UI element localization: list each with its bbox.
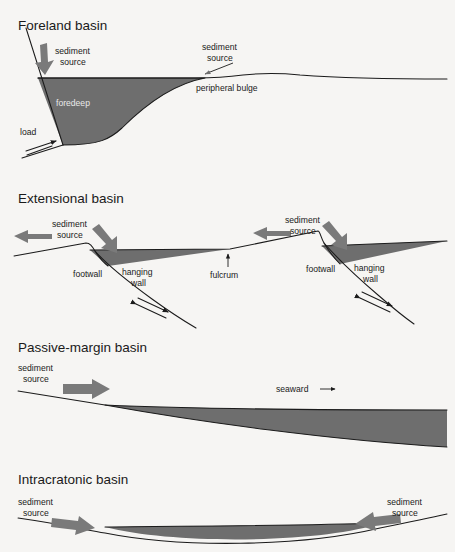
hanging-wall-label-left-line1: hanging	[122, 267, 153, 277]
slip-arrow-right-updip	[360, 298, 390, 312]
hanging-wall-label-left-line2: wall	[130, 278, 146, 288]
basin-types-figure: Foreland basin sediment source sediment …	[0, 0, 455, 552]
peripheral-bulge-surface	[38, 74, 447, 80]
hanging-wall-label-right-line2: wall	[362, 274, 378, 284]
passive-margin-sediment-wedge	[105, 405, 447, 447]
panel-title-foreland: Foreland basin	[18, 18, 107, 33]
peripheral-bulge-label: peripheral bulge	[196, 83, 258, 93]
load-label: load	[20, 127, 36, 137]
hanging-wall-label-right-line1: hanging	[354, 263, 385, 273]
panel-title-intracratonic: Intracratonic basin	[18, 472, 128, 487]
sediment-source-label-passive-line1: sediment	[18, 363, 53, 373]
sediment-source-label-passive-line2: source	[23, 374, 49, 384]
footwall-label-left: footwall	[73, 269, 102, 279]
panel-passive-margin-basin: Passive-margin basin sediment source sea…	[18, 340, 447, 447]
extensional-surface-left-block	[14, 243, 108, 266]
sediment-source-label-right-line1: sediment	[202, 42, 237, 52]
footwall-label-right: footwall	[306, 264, 335, 274]
sediment-source-label-right-line2: source	[207, 53, 233, 63]
extensional-sediment-wedge-left	[90, 249, 230, 266]
foredeep-sediment-fill	[38, 78, 205, 145]
panel-intracratonic-basin: Intracratonic basin sediment source sedi…	[18, 472, 447, 543]
thrust-transport-arrow-second	[27, 146, 52, 155]
sediment-source-label-right-line2-extensional: source	[290, 226, 316, 236]
load-thrust-base	[22, 145, 63, 158]
sediment-source-arrow-left-inward-extensional	[92, 224, 117, 253]
fulcrum-label: fulcrum	[210, 270, 238, 280]
panel-title-extensional: Extensional basin	[18, 191, 124, 206]
sediment-source-label-left-line1: sediment	[55, 46, 90, 56]
sediment-source-label-right-line1-intracratonic: sediment	[387, 497, 422, 507]
foredeep-label: foredeep	[56, 98, 90, 108]
sediment-source-label-right-line2-intracratonic: source	[392, 508, 418, 518]
sediment-source-arrow-left-outward-extensional	[14, 230, 52, 243]
sediment-source-label-left-line2-extensional: source	[57, 230, 83, 240]
panel-extensional-basin: Extensional basin sediment source	[14, 191, 447, 328]
sediment-source-arrow-right-foreland	[205, 63, 233, 74]
sediment-source-label-left-line2: source	[60, 57, 86, 67]
panel-title-passive-margin: Passive-margin basin	[18, 340, 147, 355]
sediment-source-label-left-line2-intracratonic: source	[23, 508, 49, 518]
sediment-source-arrow-passive-margin	[63, 379, 110, 399]
sediment-source-label-left-line1-extensional: sediment	[52, 219, 87, 229]
sediment-source-label-right-line1-extensional: sediment	[285, 215, 320, 225]
sediment-source-label-left-line1-intracratonic: sediment	[18, 497, 53, 507]
panel-foreland-basin: Foreland basin sediment source sediment …	[18, 18, 447, 158]
seaward-label: seaward	[276, 384, 309, 394]
sediment-source-arrow-left-foreland	[35, 43, 54, 75]
sediment-source-arrow-left-intracratonic	[51, 516, 95, 535]
